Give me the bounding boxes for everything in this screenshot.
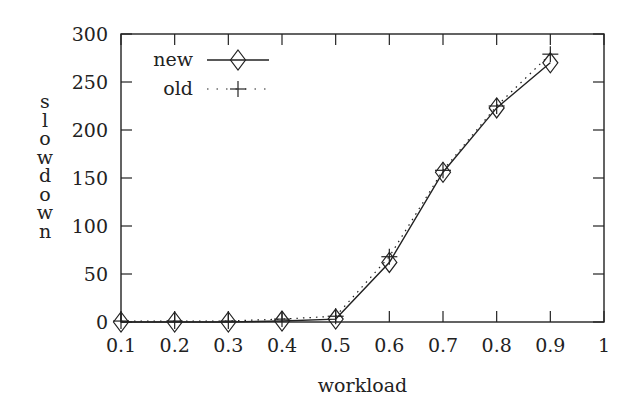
x-tick-label: 0.8: [482, 334, 512, 356]
plus-marker: [167, 313, 183, 329]
plot-frame: [121, 34, 604, 322]
plus-marker: [113, 313, 129, 329]
y-tick-label: 50: [84, 263, 108, 285]
y-tick-label: 300: [72, 23, 108, 45]
legend-label: new: [153, 48, 193, 70]
legend-label: old: [163, 77, 193, 99]
x-tick-label: 0.3: [213, 334, 243, 356]
legend-item-old: old: [163, 77, 269, 99]
x-axis-title: workload: [318, 374, 407, 396]
y-tick-label: 250: [72, 71, 108, 93]
legend-item-new: new: [153, 48, 269, 70]
x-tick-label: 0.1: [106, 334, 136, 356]
y-tick-label: 200: [72, 119, 108, 141]
y-axis-title: slowdown: [37, 90, 54, 242]
plus-marker: [274, 311, 290, 327]
y-tick-label: 150: [72, 167, 108, 189]
plus-marker: [220, 313, 236, 329]
y-tick-label: 100: [72, 215, 108, 237]
x-tick-label: 0.4: [267, 334, 297, 356]
legend: newold: [153, 48, 269, 99]
plus-marker: [230, 81, 246, 97]
x-tick-label: 0.9: [535, 334, 565, 356]
x-tick-label: 0.6: [374, 334, 404, 356]
line-chart: 0.10.20.30.40.50.60.70.80.91050100150200…: [0, 0, 641, 417]
x-tick-label: 0.7: [428, 334, 458, 356]
series-line-new: [121, 63, 550, 322]
x-tick-label: 1: [598, 334, 610, 356]
y-axis-title-char: n: [39, 220, 51, 242]
y-tick-label: 0: [96, 311, 108, 333]
x-tick-label: 0.2: [160, 334, 190, 356]
x-tick-label: 0.5: [321, 334, 351, 356]
